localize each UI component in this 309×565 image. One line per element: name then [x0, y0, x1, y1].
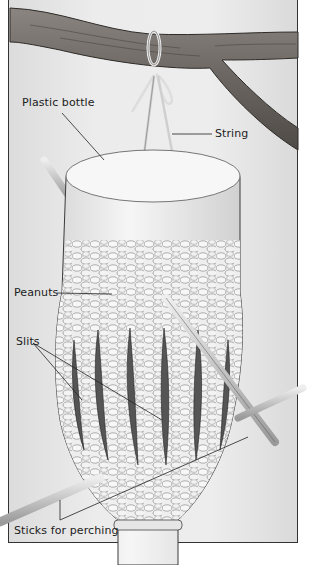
- label-plastic-bottle: Plastic bottle: [22, 96, 95, 109]
- bird-feeder-illustration: [0, 0, 309, 565]
- label-slits: Slits: [16, 335, 40, 348]
- label-sticks-for-perching: Sticks for perching: [14, 524, 119, 537]
- label-peanuts: Peanuts: [14, 286, 58, 299]
- label-string: String: [215, 127, 248, 140]
